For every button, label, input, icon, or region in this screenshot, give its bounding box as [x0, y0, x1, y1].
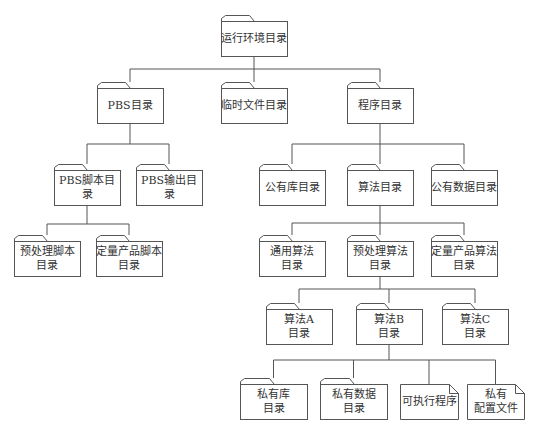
node-label-priv_cfg: 私有 配置文件	[467, 384, 524, 419]
connector-lines	[0, 0, 536, 431]
node-label-quant_script: 定量产品脚本 目录	[96, 241, 162, 276]
node-label-pre_algo: 预处理算法 目录	[347, 241, 413, 276]
node-label-pbs: PBS目录	[97, 88, 163, 123]
node-label-root: 运行环境目录	[221, 21, 287, 56]
node-label-algo: 算法目录	[347, 170, 413, 205]
node-label-algo_b: 算法B 目录	[356, 309, 422, 344]
node-label-algo_a: 算法A 目录	[266, 309, 332, 344]
node-label-pre_script: 预处理脚本 目录	[14, 241, 80, 276]
node-label-pbs_script: PBS脚本目录	[54, 170, 120, 205]
node-label-priv_lib: 私有库 目录	[240, 384, 307, 419]
node-label-tmp: 临时文件目录	[221, 88, 287, 123]
node-label-pub_lib: 公有库目录	[259, 170, 325, 205]
directory-tree-diagram: 运行环境目录PBS目录临时文件目录程序目录PBS脚本目录PBS输出目录公有库目录…	[0, 0, 536, 431]
node-label-algo_c: 算法C 目录	[442, 309, 508, 344]
node-label-prog: 程序目录	[347, 88, 413, 123]
node-label-pub_data: 公有数据目录	[431, 170, 497, 205]
node-label-priv_data: 私有数据 目录	[320, 384, 387, 419]
node-label-quant_algo: 定量产品算法 目录	[431, 241, 497, 276]
node-label-pbs_out: PBS输出目录	[136, 170, 202, 205]
node-label-exe: 可执行程序	[400, 384, 458, 419]
node-label-gen_algo: 通用算法 目录	[259, 241, 325, 276]
